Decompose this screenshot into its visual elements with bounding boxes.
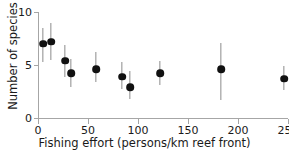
x-tick-label: 100	[128, 125, 149, 136]
data-point-marker	[217, 65, 225, 73]
y-tick-mark	[34, 65, 39, 66]
x-tick-label: 50	[81, 125, 95, 136]
x-tick-mark	[188, 119, 189, 124]
plot-area: 0510 050100150200250	[38, 12, 288, 118]
x-tick-mark	[138, 119, 139, 124]
data-point-marker	[47, 38, 55, 46]
x-axis-spine	[38, 118, 288, 119]
x-tick-mark	[288, 119, 289, 124]
data-point-marker	[39, 40, 47, 48]
data-point-marker	[118, 73, 126, 81]
x-tick-label: 0	[35, 125, 42, 136]
x-tick-mark	[88, 119, 89, 124]
data-point-marker	[280, 75, 288, 83]
species-vs-fishing-effort-chart: 0510 050100150200250 Fishing effort (per…	[0, 0, 289, 158]
data-point-marker	[126, 83, 134, 91]
x-tick-mark	[38, 119, 39, 124]
x-tick-label: 200	[228, 125, 249, 136]
x-tick-label: 150	[178, 125, 199, 136]
y-axis-label: Number of species	[6, 0, 20, 116]
x-tick-label: 250	[278, 125, 290, 136]
data-point-marker	[92, 65, 100, 73]
y-tick-mark	[34, 12, 39, 13]
x-axis-label: Fishing effort (persons/km reef front)	[0, 136, 289, 150]
x-tick-mark	[238, 119, 239, 124]
data-point-marker	[61, 57, 69, 65]
data-point-marker	[67, 70, 75, 78]
data-point-marker	[156, 70, 164, 78]
